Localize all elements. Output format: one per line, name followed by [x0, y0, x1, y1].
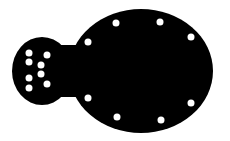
small-lobe-hole: [26, 59, 33, 66]
large-body-hole: [157, 19, 164, 26]
large-body-hole: [188, 100, 195, 107]
small-lobe-hole: [26, 75, 33, 82]
large-body-hole: [158, 117, 165, 124]
small-lobe-hole: [44, 81, 51, 88]
small-lobe-hole: [44, 52, 51, 59]
small-lobe-hole: [38, 71, 45, 78]
gasket-figure: [0, 0, 230, 141]
small-lobe-hole: [38, 62, 45, 69]
large-body-hole: [113, 20, 120, 27]
large-body: [69, 9, 213, 133]
small-lobe-hole: [26, 85, 33, 92]
large-body-hole: [114, 114, 121, 121]
small-lobe-hole: [26, 50, 33, 57]
neck: [55, 45, 85, 97]
large-body-hole: [85, 39, 92, 46]
large-body-hole: [188, 34, 195, 41]
large-body-hole: [85, 95, 92, 102]
